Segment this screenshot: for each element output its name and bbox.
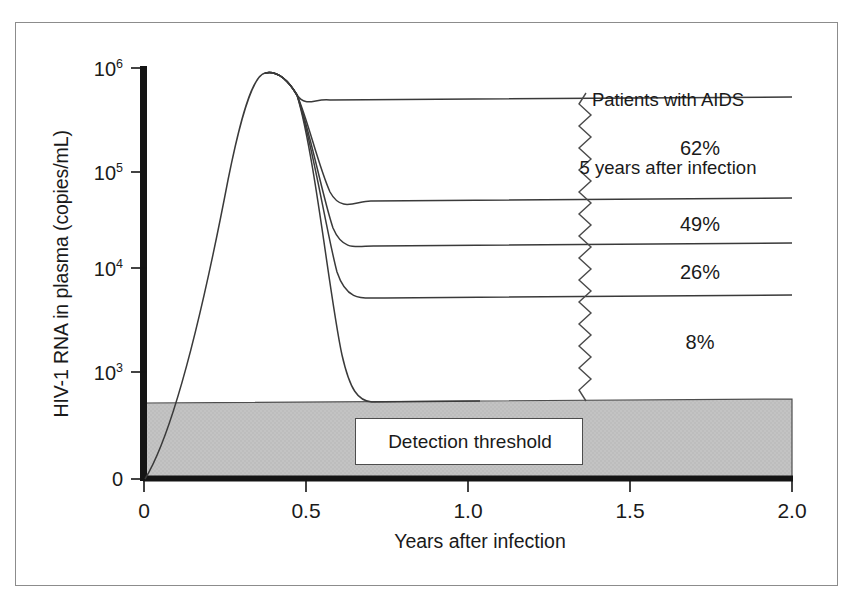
curve-below-detection — [265, 72, 480, 402]
x-axis-label: Years after infection — [160, 530, 800, 554]
y-tick-label-1e5: 105 — [53, 161, 123, 185]
x-tick-label-0-5: 0.5 — [266, 498, 346, 524]
y-tick-label-1e3: 103 — [53, 361, 123, 385]
detection-threshold-box: Detection threshold — [355, 418, 583, 465]
x-tick-label-2-0: 2.0 — [752, 498, 832, 524]
legend-heading-line1: Patients with AIDS — [518, 89, 818, 112]
y-tick-exp-3: 3 — [116, 361, 123, 375]
x-tick-label-0: 0 — [104, 498, 184, 524]
y-tick-exp-6: 6 — [116, 57, 123, 71]
legend-heading: Patients with AIDS 5 years after infecti… — [518, 44, 818, 225]
y-tick-label-0: 0 — [53, 467, 123, 491]
annotation-pct-49: 49% — [655, 212, 745, 236]
y-tick-label-1e4: 104 — [53, 257, 123, 281]
detection-threshold-label: Detection threshold — [356, 430, 584, 453]
y-tick-exp-5: 5 — [116, 161, 123, 175]
annotation-pct-26: 26% — [655, 260, 745, 284]
annotation-pct-8: 8% — [655, 330, 745, 354]
x-tick-label-1-0: 1.0 — [428, 498, 508, 524]
y-tick-exp-4: 4 — [116, 257, 123, 271]
y-tick-label-1e6: 106 — [53, 57, 123, 81]
figure-root: HIV-1 RNA in plasma (copies/mL) Years af… — [0, 0, 854, 607]
annotation-pct-62: 62% — [655, 136, 745, 160]
x-tick-label-1-5: 1.5 — [590, 498, 670, 524]
